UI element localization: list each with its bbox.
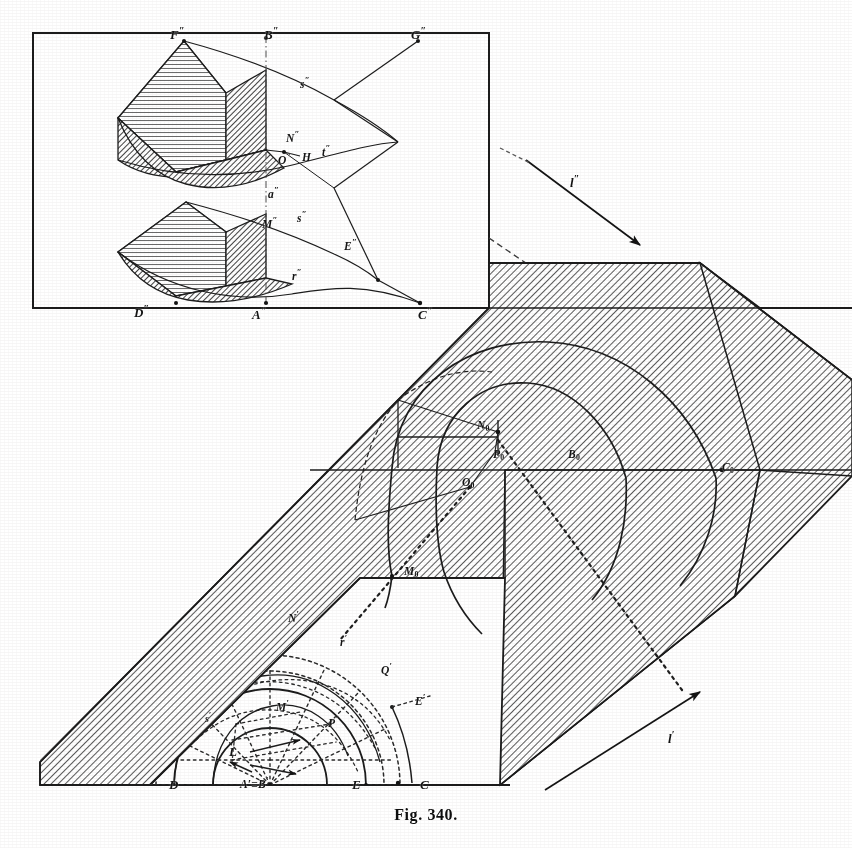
label-G-double-prime: G″ bbox=[411, 26, 426, 41]
label-Q-prime: Q′ bbox=[381, 662, 392, 676]
label-B-zero: B0 bbox=[568, 449, 580, 462]
label-A-equiv-B-prime: A′≡B′ bbox=[240, 776, 268, 790]
label-P-prime: P′ bbox=[328, 715, 337, 729]
label-l-prime: l′ bbox=[668, 730, 674, 745]
label-E-double-prime: E″ bbox=[344, 238, 356, 252]
figure-caption: Fig. 340. bbox=[0, 806, 852, 824]
label-s-double-prime-lower: s″ bbox=[297, 210, 306, 224]
figure-340: F″ B″ G″ s″ N″ O″ H t″ a″ M″ s″ E″ r″ D″… bbox=[0, 0, 852, 848]
label-O-double-prime: O″ bbox=[278, 152, 291, 166]
label-s-double-prime-upper: s″ bbox=[300, 76, 309, 90]
label-C-double-prime: C″ bbox=[418, 306, 432, 321]
label-r-double-prime: r″ bbox=[292, 268, 301, 282]
label-t-double-prime: t″ bbox=[322, 144, 330, 158]
label-H-double-prime: H bbox=[302, 152, 311, 164]
engraving-plate bbox=[0, 0, 852, 848]
label-E: E bbox=[352, 778, 361, 791]
label-l-double-prime: l″ bbox=[570, 174, 579, 189]
label-O-zero: O0 bbox=[462, 477, 475, 490]
label-N-prime: N′ bbox=[288, 610, 299, 624]
label-D-double-prime: D″ bbox=[134, 304, 149, 319]
label-P-zero: P0 bbox=[493, 449, 504, 462]
label-r-prime: r′ bbox=[340, 634, 347, 648]
label-N-double-prime: N″ bbox=[286, 130, 299, 144]
axis-arrow-l-double-prime bbox=[500, 148, 640, 245]
label-B-double-prime: B″ bbox=[264, 26, 278, 41]
label-D: D bbox=[169, 778, 179, 791]
label-E-prime: E′ bbox=[415, 693, 425, 707]
label-M-prime: M′ bbox=[276, 699, 288, 713]
label-A-double-prime: A″ bbox=[252, 306, 266, 321]
label-N-zero: N0 bbox=[477, 420, 490, 433]
label-M-zero: M0 bbox=[404, 566, 419, 579]
label-L: L bbox=[229, 745, 237, 758]
label-M-double-prime: M″ bbox=[262, 216, 277, 230]
label-C-zero: C0 bbox=[722, 462, 734, 475]
label-C: C bbox=[420, 778, 429, 791]
label-F-double-prime: F″ bbox=[170, 26, 184, 41]
label-s-prime: s′ bbox=[205, 712, 211, 724]
label-a-double-prime: a″ bbox=[268, 186, 278, 200]
